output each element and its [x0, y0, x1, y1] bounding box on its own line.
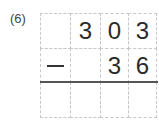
cell-r1-c1 — [70, 48, 101, 83]
cell-r1-c3: 6 — [128, 48, 157, 83]
sum-line — [40, 81, 158, 83]
cell-r0-c1: 3 — [70, 13, 101, 49]
answer-cell-c3[interactable] — [128, 82, 157, 118]
minus-sign-icon — [47, 65, 64, 67]
answer-cell-c0[interactable] — [40, 82, 71, 118]
cell-r0-c2: 0 — [100, 13, 129, 49]
subtraction-grid: 3 0 3 3 6 — [40, 13, 157, 118]
cell-r0-c0 — [40, 13, 71, 49]
answer-cell-c2[interactable] — [100, 82, 129, 118]
cell-r1-c2: 3 — [100, 48, 129, 83]
cell-r1-c0 — [40, 48, 71, 83]
answer-cell-c1[interactable] — [70, 82, 101, 118]
cell-r0-c3: 3 — [128, 13, 157, 49]
problem-number: (6) — [10, 11, 26, 26]
